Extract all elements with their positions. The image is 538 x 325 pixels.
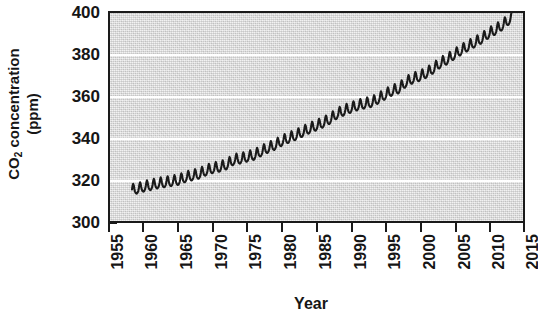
gridlines bbox=[110, 55, 523, 181]
y-tick-label-400: 400 bbox=[40, 4, 100, 21]
x-axis-title: Year bbox=[0, 295, 538, 313]
y-tick-label-380: 380 bbox=[40, 46, 100, 63]
co2-concentration-chart: CO2 concentration (ppm) 300 320 340 360 … bbox=[0, 0, 538, 325]
x-tick-mark-1970 bbox=[212, 223, 214, 232]
x-tick-mark-1965 bbox=[177, 223, 179, 232]
co2-data-line bbox=[132, 13, 512, 194]
x-tick-label-2005: 2005 bbox=[447, 234, 465, 288]
x-tick-label-2015: 2015 bbox=[515, 234, 533, 288]
y-axis-title: CO2 concentration (ppm) bbox=[0, 0, 46, 228]
y-tick-label-360: 360 bbox=[40, 88, 100, 105]
x-tick-mark-2005 bbox=[455, 223, 457, 232]
x-tick-mark-1995 bbox=[385, 223, 387, 232]
x-tick-label-1980: 1980 bbox=[273, 234, 291, 288]
x-tick-label-1955: 1955 bbox=[100, 234, 118, 288]
x-tick-label-1965: 1965 bbox=[169, 234, 187, 288]
y-axis-title-line1: CO2 concentration bbox=[5, 48, 24, 179]
x-tick-label-1995: 1995 bbox=[377, 234, 395, 288]
x-tick-label-2010: 2010 bbox=[481, 234, 499, 288]
x-tick-label-2000: 2000 bbox=[412, 234, 430, 288]
x-tick-mark-1985 bbox=[316, 223, 318, 232]
x-tick-mark-1980 bbox=[281, 223, 283, 232]
x-tick-mark-1990 bbox=[351, 223, 353, 232]
y-tick-label-340: 340 bbox=[40, 130, 100, 147]
x-tick-label-1985: 1985 bbox=[308, 234, 326, 288]
x-tick-mark-2010 bbox=[489, 223, 491, 232]
x-tick-label-1970: 1970 bbox=[204, 234, 222, 288]
x-tick-label-1990: 1990 bbox=[343, 234, 361, 288]
x-tick-label-1975: 1975 bbox=[238, 234, 256, 288]
x-tick-mark-1960 bbox=[142, 223, 144, 232]
x-axis-title-text: Year bbox=[294, 295, 328, 313]
y-tick-label-300: 300 bbox=[40, 214, 100, 231]
x-tick-mark-1955 bbox=[108, 223, 110, 232]
plot-area bbox=[108, 11, 525, 223]
y-tick-label-320: 320 bbox=[40, 172, 100, 189]
x-tick-label-1960: 1960 bbox=[134, 234, 152, 288]
x-tick-mark-1975 bbox=[246, 223, 248, 232]
y-axis-title-line1-text: CO2 concentration bbox=[5, 48, 22, 179]
x-tick-mark-2015 bbox=[523, 223, 525, 232]
plot-svg bbox=[110, 13, 523, 223]
y-axis-title-line2: (ppm) bbox=[24, 48, 41, 179]
x-tick-mark-2000 bbox=[420, 223, 422, 232]
